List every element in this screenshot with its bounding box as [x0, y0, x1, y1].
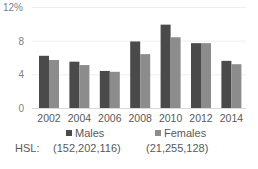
y-tick-label: 4 — [18, 69, 24, 80]
bar-males-2008 — [130, 41, 140, 108]
bar-males-2006 — [100, 71, 110, 108]
y-tick-label: 8 — [18, 36, 24, 47]
x-tick-label: 2002 — [37, 112, 61, 124]
x-axis-ticks: 2002200420062008201020122014 — [37, 112, 243, 124]
bar-females-2008 — [140, 54, 150, 108]
bar-males-2012 — [191, 43, 201, 108]
x-tick-label: 2012 — [189, 112, 213, 124]
x-tick-label: 2006 — [98, 112, 122, 124]
legend-females-label: Females — [164, 127, 206, 139]
bar-females-2006 — [110, 72, 120, 108]
legend-males: Males — [66, 127, 104, 139]
bar-females-2010 — [171, 37, 181, 108]
legend-males-label: Males — [75, 127, 104, 139]
bar-males-2010 — [161, 25, 171, 108]
x-tick-label: 2008 — [129, 112, 153, 124]
females-hsl-value: (21,255,128) — [146, 142, 208, 154]
bar-males-2014 — [221, 61, 231, 108]
bar-females-2004 — [79, 65, 89, 108]
females-swatch-icon — [155, 130, 161, 136]
bar-females-2002 — [49, 60, 59, 108]
y-tick-label: 12% — [3, 2, 23, 13]
y-tick-label: 0 — [18, 103, 24, 114]
males-swatch-icon — [66, 130, 72, 136]
bar-males-2002 — [39, 56, 49, 108]
legend-females: Females — [155, 127, 206, 139]
males-hsl-value: (152,202,116) — [53, 142, 121, 154]
x-tick-label: 2010 — [159, 112, 183, 124]
y-axis-ticks: 04812% — [3, 2, 24, 114]
bars — [39, 25, 241, 108]
x-tick-label: 2004 — [68, 112, 92, 124]
hsl-prefix: HSL: — [15, 142, 39, 154]
bar-females-2012 — [201, 43, 211, 108]
x-tick-label: 2014 — [220, 112, 244, 124]
bar-males-2004 — [69, 62, 79, 108]
bar-females-2014 — [231, 64, 241, 108]
